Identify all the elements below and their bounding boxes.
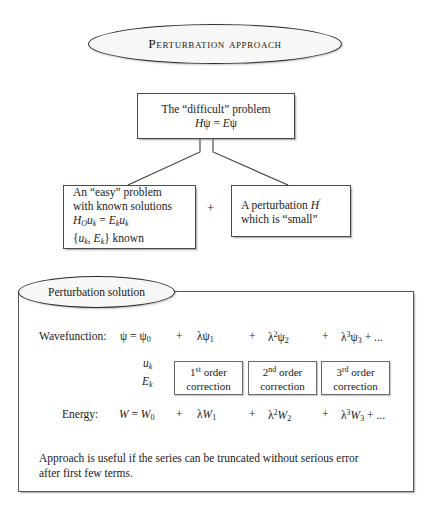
- easy-problem-known-set: {uk, Ek} known: [73, 231, 144, 249]
- footnote-line-2: after first few terms.: [39, 466, 399, 481]
- first-order-correction-box: 1st order correction: [174, 361, 243, 395]
- perturbation-box: A perturbation H′ which is “small”: [231, 185, 351, 237]
- difficult-problem-line1: The “difficult” problem: [162, 102, 271, 116]
- correction-3-word: order: [349, 365, 375, 377]
- set-e-symbol: E: [94, 232, 101, 244]
- correction-2-line1: 2nd order: [263, 362, 302, 380]
- footnote-line-1: Approach is useful if the series can be …: [39, 451, 399, 466]
- energy-term-2: λ2W2: [268, 408, 291, 423]
- energy-plus-3: +: [322, 408, 329, 420]
- w-1-subscript: 1: [212, 413, 216, 422]
- prime-mark: ′: [319, 198, 321, 207]
- w-3: W: [351, 409, 361, 421]
- ek-subscript-2: k: [149, 380, 153, 389]
- plus-operator: +: [207, 201, 214, 214]
- energy-plus-2: +: [249, 408, 256, 420]
- w-2: W: [278, 409, 288, 421]
- diagram-title-ellipse: Perturbation approach: [88, 24, 342, 64]
- wavefunction-term-1: λψ1: [197, 330, 214, 344]
- easy-problem-line2: with known solutions: [73, 199, 172, 213]
- w-1: W: [203, 408, 213, 420]
- wavefunction-psi0: ψ: [139, 330, 146, 342]
- u-subscript-2: k: [125, 219, 129, 228]
- correction-2-word: order: [276, 365, 302, 377]
- second-order-correction-box: 2nd order correction: [248, 361, 317, 395]
- energy-w0: W: [141, 408, 151, 420]
- correction-1-line2: correction: [186, 379, 231, 394]
- wavefunction-lhs: ψ = ψ0: [120, 330, 151, 344]
- footnote: Approach is useful if the series can be …: [39, 451, 399, 481]
- equals-sign-2: =: [96, 214, 108, 226]
- ek-symbol-2: E: [142, 375, 149, 387]
- energy-w0-subscript: 0: [150, 413, 154, 422]
- wavefunction-plus-1: +: [176, 330, 183, 342]
- wavefunction-term-2: λ2ψ2: [268, 330, 289, 345]
- energy-symbol: E: [223, 117, 230, 129]
- uk-subscript: k: [149, 362, 153, 371]
- easy-problem-eigenvalue-equation: HOuk = Ekuk: [73, 213, 129, 231]
- wavefunction-term-3: λ3ψ3 + ...: [341, 330, 383, 345]
- correction-3-line1: 3rd order: [336, 362, 374, 380]
- energy-lhs: W = W0: [119, 408, 154, 422]
- perturbation-text: A perturbation: [241, 199, 311, 211]
- perturbation-line1: A perturbation H′: [241, 196, 321, 212]
- psi-2-subscript: 2: [285, 336, 289, 345]
- page-title: Perturbation approach: [148, 36, 281, 52]
- h-prime-symbol: H: [311, 199, 319, 211]
- wavefunction-plus-3: +: [322, 330, 329, 342]
- correction-1-line1: 1st order: [190, 362, 227, 380]
- easy-problem-box: An “easy” problem with known solutions H…: [63, 185, 196, 249]
- energy-plus-1: +: [176, 408, 183, 420]
- difficult-problem-box: The “difficult” problem Hψ = Eψ: [137, 93, 295, 139]
- psi-symbol-2: ψ: [230, 117, 237, 129]
- ek-symbol: E: [109, 214, 116, 226]
- perturbation-solution-ellipse: Perturbation solution: [18, 276, 175, 308]
- wavefunction-plus-2: +: [249, 330, 256, 342]
- psi-1-subscript: 1: [210, 335, 214, 344]
- energy-ellipsis: + ...: [364, 409, 385, 421]
- wavefunction-ellipsis: + ...: [362, 331, 383, 343]
- psi-symbol: ψ: [203, 117, 210, 129]
- third-order-correction-box: 3rd order correction: [321, 361, 390, 395]
- psi-3: ψ: [351, 331, 358, 343]
- wavefunction-equals: =: [127, 330, 139, 342]
- easy-problem-line1: An “easy” problem: [73, 185, 162, 199]
- wavefunction-psi0-subscript: 0: [147, 335, 151, 344]
- correction-2-line2: correction: [260, 379, 305, 394]
- zeroth-energy-target: Ek: [142, 375, 153, 389]
- correction-3-suffix: rd: [342, 365, 349, 374]
- wavefunction-label: Wavefunction:: [39, 330, 106, 342]
- difficult-problem-equation: Hψ = Eψ: [195, 116, 237, 130]
- w-2-subscript: 2: [287, 414, 291, 423]
- set-known-label: known: [110, 232, 144, 244]
- zeroth-wavefunction-target: uk: [143, 357, 152, 371]
- energy-equals: =: [129, 408, 141, 420]
- energy-term-1: λW1: [197, 408, 216, 422]
- perturbation-line2: which is “small”: [241, 212, 318, 226]
- correction-3-line2: correction: [333, 379, 378, 394]
- energy-w: W: [119, 408, 129, 420]
- energy-term-3: λ3W3 + ...: [341, 408, 385, 423]
- psi-1: ψ: [203, 330, 210, 342]
- equals-sign: =: [211, 117, 223, 129]
- psi-2: ψ: [278, 331, 285, 343]
- diagram-canvas: Perturbation approach The “difficult” pr…: [0, 0, 430, 518]
- perturbation-solution-label: Perturbation solution: [48, 286, 145, 298]
- correction-1-word: order: [201, 365, 227, 377]
- energy-label: Energy:: [62, 408, 98, 420]
